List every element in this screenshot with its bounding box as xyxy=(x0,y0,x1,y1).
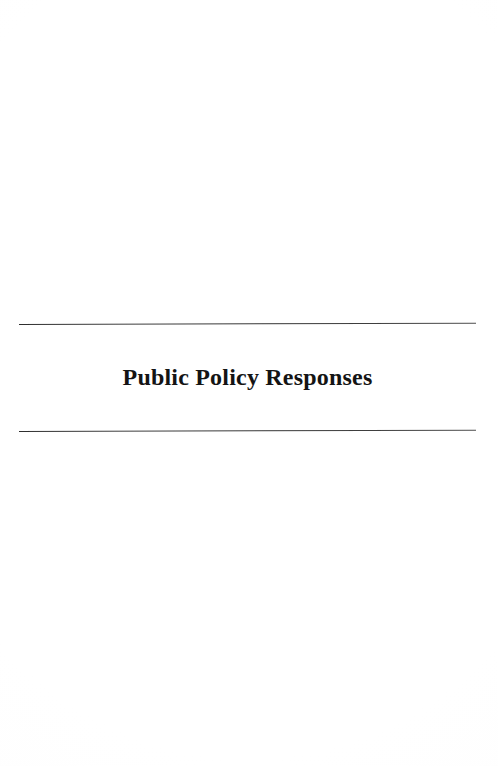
part-title-divider: Public Policy Responses xyxy=(19,324,476,432)
scanned-page: Public Policy Responses xyxy=(0,0,498,766)
page-title: Public Policy Responses xyxy=(19,324,476,432)
upper-blank-area xyxy=(0,0,498,324)
lower-blank-area xyxy=(0,432,498,766)
